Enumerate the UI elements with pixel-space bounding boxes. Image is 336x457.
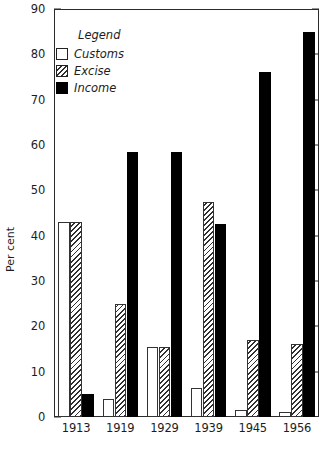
y-tick-label: 0 bbox=[38, 410, 45, 424]
bar-income-1929 bbox=[171, 152, 183, 417]
bar-excise-1956 bbox=[291, 344, 303, 417]
y-tick-label: 50 bbox=[31, 183, 45, 197]
bar-group bbox=[235, 9, 271, 417]
bar-income-1956 bbox=[303, 32, 315, 417]
bar-customs-1919 bbox=[103, 399, 115, 417]
x-tick-label: 1929 bbox=[150, 421, 178, 435]
bar-customs-1945 bbox=[235, 410, 247, 417]
bar-chart: Per cent 0102030405060708090 19131919192… bbox=[0, 0, 336, 457]
bar-income-1919 bbox=[127, 152, 139, 417]
bar-excise-1929 bbox=[159, 347, 171, 417]
x-axis: 191319191929193919451956 bbox=[54, 419, 319, 443]
legend-swatch-income-icon bbox=[56, 82, 68, 94]
bar-customs-1913 bbox=[58, 222, 70, 417]
y-tick-label: 10 bbox=[31, 365, 45, 379]
legend-swatch-excise-icon bbox=[56, 65, 68, 77]
bar-customs-1929 bbox=[147, 347, 159, 417]
legend-item-income: Income bbox=[56, 81, 161, 95]
bar-customs-1939 bbox=[191, 388, 203, 417]
x-tick-label: 1956 bbox=[283, 421, 311, 435]
bar-group bbox=[279, 9, 315, 417]
y-tick-label: 90 bbox=[31, 2, 45, 16]
legend-label-excise: Excise bbox=[74, 64, 111, 78]
bar-excise-1945 bbox=[247, 340, 259, 417]
x-tick-label: 1939 bbox=[194, 421, 222, 435]
legend-item-customs: Customs bbox=[56, 47, 161, 61]
legend-swatch-customs-icon bbox=[56, 48, 68, 60]
x-tick-label: 1919 bbox=[106, 421, 134, 435]
legend-label-income: Income bbox=[74, 81, 116, 95]
x-tick-label: 1913 bbox=[62, 421, 90, 435]
legend-item-excise: Excise bbox=[56, 64, 161, 78]
y-tick-label: 80 bbox=[31, 47, 45, 61]
bar-income-1939 bbox=[215, 224, 227, 417]
y-tick-label: 70 bbox=[31, 93, 45, 107]
bar-excise-1919 bbox=[115, 304, 127, 417]
bar-excise-1939 bbox=[203, 202, 215, 417]
legend-title: Legend bbox=[78, 28, 161, 42]
bar-excise-1913 bbox=[70, 222, 82, 417]
bar-customs-1956 bbox=[279, 412, 291, 417]
bar-income-1945 bbox=[259, 72, 271, 417]
x-tick-label: 1945 bbox=[239, 421, 267, 435]
y-tick-label: 30 bbox=[31, 274, 45, 288]
y-axis: 0102030405060708090 bbox=[0, 0, 54, 457]
y-tick-label: 40 bbox=[31, 229, 45, 243]
y-tick-label: 60 bbox=[31, 138, 45, 152]
y-tick-label: 20 bbox=[31, 319, 45, 333]
bar-income-1913 bbox=[82, 394, 94, 417]
legend-label-customs: Customs bbox=[74, 47, 124, 61]
legend: Legend Customs Excise Income bbox=[56, 28, 161, 98]
bar-group bbox=[191, 9, 227, 417]
